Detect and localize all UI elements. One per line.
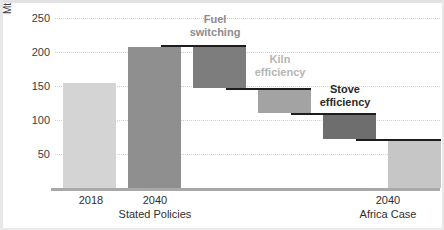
annotation-kiln-efficiency: Kiln efficiency [240,53,320,79]
annotation-fuel-switching: Fuel switching [175,13,255,39]
y-tick-150: 150 [6,81,50,92]
y-axis-tick-labels: 250 200 150 100 50 [0,0,50,230]
bar-2040-africa-case[interactable] [388,140,441,188]
frame-top-border [0,0,444,3]
y-tick-50: 50 [6,149,50,160]
frame-bottom-border [0,228,444,230]
x-label-2018-year: 2018 [79,194,103,206]
y-tick-100: 100 [6,115,50,126]
x-axis-baseline [51,188,440,191]
connector-stated-policies-to-fuel-switching [161,45,246,47]
bar-fuel-switching[interactable] [193,47,246,89]
x-label-2040-africa-case: 2040 Africa Case [348,193,428,221]
x-label-2040-africa-case-scenario: Africa Case [348,207,428,221]
x-label-2040-africa-case-year: 2040 [376,194,400,206]
bar-2040-stated-policies[interactable] [128,47,181,188]
y-tick-200: 200 [6,47,50,58]
connector-kiln-to-stove [291,113,376,115]
x-label-2040-stated-policies: 2040 Stated Policies [115,193,195,221]
y-tick-250: 250 [6,13,50,24]
annotation-stove-efficiency: Stove efficiency [303,83,387,109]
x-label-2040-stated-policies-scenario: Stated Policies [115,207,195,221]
bar-2018[interactable] [63,83,116,188]
bar-stove-efficiency[interactable] [323,115,376,139]
connector-stove-to-africa-case [356,139,441,141]
chart-screenshot: Mt 250 200 150 100 50 [0,0,444,230]
x-label-2040-stated-policies-year: 2040 [143,194,167,206]
connector-fuel-switching-to-kiln [226,88,311,90]
